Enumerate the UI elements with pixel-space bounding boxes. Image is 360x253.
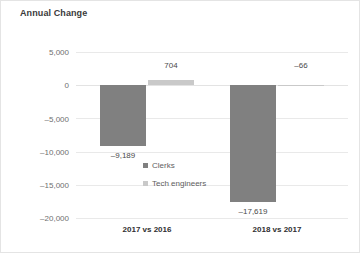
y-axis-tick-neg10000: –10,000	[1, 148, 69, 157]
legend-swatch-tech-engineers-icon	[143, 181, 148, 186]
category-label-2017-vs-2016: 2017 vs 2016	[123, 225, 172, 234]
y-axis-tick-neg20000: –20,000	[1, 214, 69, 223]
plot-area	[76, 52, 348, 218]
legend-item-clerks[interactable]: Clerks	[143, 161, 206, 170]
y-axis-tick-neg15000: –15,000	[1, 181, 69, 190]
chart-legend: Clerks Tech engineers	[143, 161, 206, 197]
chart-title: Annual Change	[20, 8, 87, 18]
y-axis-tick-5000: 5,000	[1, 48, 69, 57]
y-axis-tick-neg5000: –5,000	[1, 115, 69, 124]
gridline-neg15000	[76, 185, 348, 186]
legend-label-tech-engineers: Tech engineers	[152, 179, 206, 188]
category-label-2018-vs-2017: 2018 vs 2017	[253, 225, 302, 234]
data-label-tech-engineers-2017-vs-2016: 704	[164, 61, 177, 70]
bar-tech-engineers-2018-vs-2017[interactable]	[278, 85, 324, 86]
bar-tech-engineers-2017-vs-2016[interactable]	[148, 80, 194, 85]
data-label-clerks-2018-vs-2017: –17,619	[239, 207, 268, 216]
y-axis-tick-0: 0	[1, 81, 69, 90]
gridline-5000	[76, 52, 348, 53]
legend-label-clerks: Clerks	[152, 161, 175, 170]
bar-clerks-2018-vs-2017[interactable]	[230, 85, 276, 202]
gridline-neg20000	[76, 218, 348, 219]
bar-clerks-2017-vs-2016[interactable]	[100, 85, 146, 146]
legend-swatch-clerks-icon	[143, 163, 148, 168]
data-label-clerks-2017-vs-2016: –9,189	[111, 151, 135, 160]
data-label-tech-engineers-2018-vs-2017: –66	[294, 61, 307, 70]
legend-item-tech-engineers[interactable]: Tech engineers	[143, 179, 206, 188]
annual-change-bar-chart: Annual Change 5,000 0 –5,000 –10,000 –15…	[0, 0, 360, 253]
